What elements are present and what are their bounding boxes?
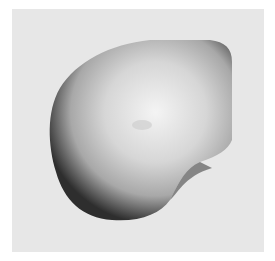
shell-blemish <box>132 120 152 130</box>
shell-image <box>0 0 275 261</box>
shell-body <box>50 40 232 220</box>
